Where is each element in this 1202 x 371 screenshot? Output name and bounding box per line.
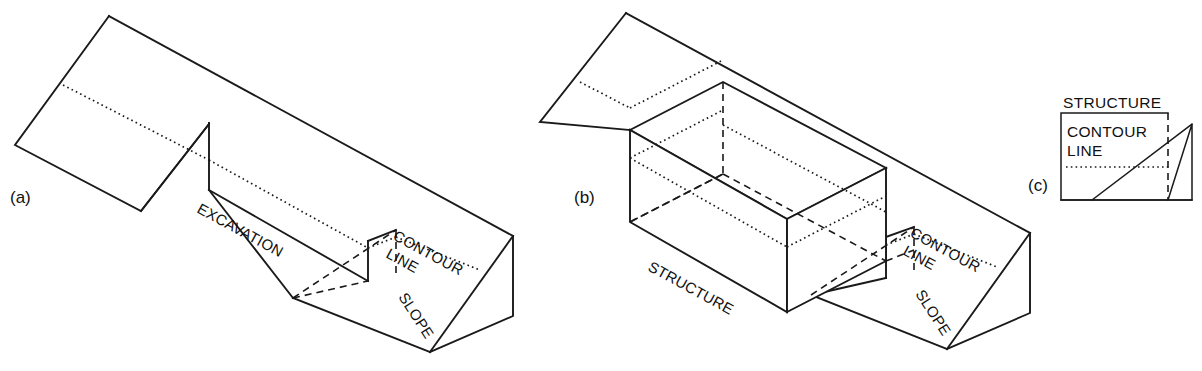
panel-a-group: EXCAVATION CONTOUR LINE SLOPE (a) [10,16,513,352]
panel-b-group: STRUCTURE CONTOUR LINE SLOPE (b) [540,13,1030,349]
panel-a-hidden-floor-right [293,281,368,298]
figure-container: EXCAVATION CONTOUR LINE SLOPE (a) [0,0,1202,371]
label-slope-a: SLOPE [395,289,437,341]
panel-c-slope-triangle [1168,124,1192,200]
panel-c-group: STRUCTURE CONTOUR LINE (c) [1028,94,1192,200]
label-contour-line-2-c: LINE [1067,142,1103,159]
technical-diagram-svg: EXCAVATION CONTOUR LINE SLOPE (a) [0,0,1202,371]
label-contour-line-1-c: CONTOUR [1067,123,1147,140]
panel-a-hidden-floor-diagonal [293,230,396,298]
label-structure-c: STRUCTURE [1063,94,1161,111]
label-slope-b: SLOPE [912,286,954,338]
panel-label-b: (b) [574,188,595,207]
panel-label-a: (a) [10,188,31,207]
panel-label-c: (c) [1028,176,1048,195]
